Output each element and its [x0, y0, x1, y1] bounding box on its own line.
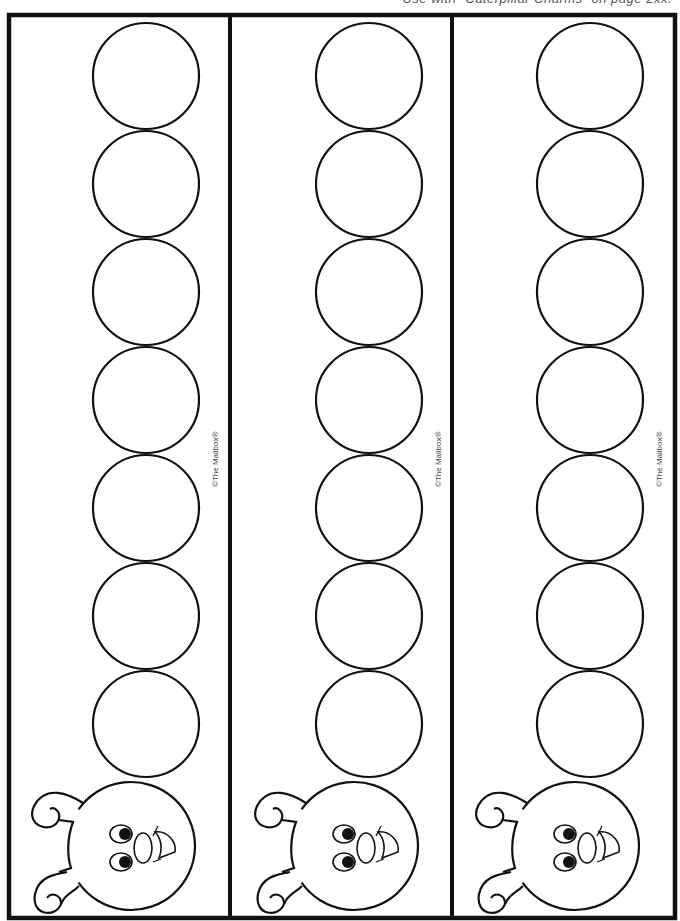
body-segment-circle [93, 455, 199, 561]
nose-ellipse [578, 833, 596, 863]
body-segment-circle [93, 347, 199, 453]
antenna-top [32, 793, 83, 828]
body-segment-circle [93, 23, 199, 129]
body-segment-circle [537, 455, 643, 561]
antenna-curl [270, 895, 284, 904]
eye-pupil [563, 856, 575, 868]
eye-pupil [342, 828, 354, 840]
head-neck-outline [59, 820, 73, 872]
body-segment-circle [93, 239, 199, 345]
eye-pupil [342, 856, 354, 868]
copyright-label: ©The Mailbox® [211, 432, 220, 487]
body-segment-circle [316, 671, 422, 777]
antenna-bottom [479, 872, 523, 913]
body-segment-circle [316, 131, 422, 237]
head-neck-outline [282, 820, 296, 872]
body-segment-circle [316, 563, 422, 669]
body-segment-circle [316, 347, 422, 453]
eye-pupil [563, 828, 575, 840]
nose-ellipse [357, 833, 375, 863]
eye-pupil [119, 828, 131, 840]
copyright-label: ©The Mailbox® [434, 432, 443, 487]
body-segment-circle [93, 671, 199, 777]
body-segment-circle [537, 239, 643, 345]
antenna-curl [491, 895, 505, 904]
antenna-top [476, 793, 527, 828]
body-segment-circle [537, 131, 643, 237]
head-neck-outline [503, 820, 517, 872]
antenna-bottom [35, 872, 79, 913]
body-segment-circle [537, 347, 643, 453]
antenna-bottom [258, 872, 302, 913]
eye-pupil [119, 856, 131, 868]
body-segment-circle [316, 23, 422, 129]
caterpillar-sheet [0, 0, 680, 921]
antenna-top [255, 793, 306, 828]
body-segment-circle [316, 239, 422, 345]
caterpillar-strip-1 [32, 23, 199, 913]
copyright-label: ©The Mailbox® [655, 432, 664, 487]
caterpillar-strip-3 [476, 23, 643, 913]
nose-ellipse [134, 833, 152, 863]
body-segment-circle [537, 563, 643, 669]
caterpillar-strip-2 [255, 23, 422, 913]
body-segment-circle [537, 23, 643, 129]
body-segment-circle [93, 131, 199, 237]
antenna-curl [47, 895, 61, 904]
body-segment-circle [537, 671, 643, 777]
body-segment-circle [93, 563, 199, 669]
body-segment-circle [316, 455, 422, 561]
